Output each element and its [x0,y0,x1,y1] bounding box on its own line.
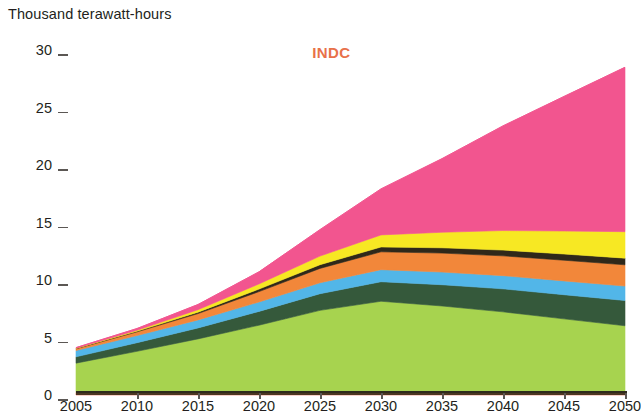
x-axis-tick-label: 2030 [365,398,397,414]
x-axis-tick-label: 2035 [426,398,458,414]
x-axis-line [76,393,627,395]
y-axis-tick-label: 20 [36,157,52,173]
x-axis-tick-label: 2050 [609,398,641,414]
x-axis-tick-label: 2020 [243,398,275,414]
x-axis-tick-label: 2015 [182,398,214,414]
y-axis-tick-mark [58,284,68,286]
x-axis-tick-mark [198,393,200,399]
x-axis-tick-label: 2010 [121,398,153,414]
x-axis-tick-label: 2025 [304,398,336,414]
y-axis-tick-label: 15 [36,215,52,231]
y-axis-tick-label: 25 [36,100,52,116]
x-axis-tick-mark [137,393,139,399]
x-axis-line-inner [76,391,627,393]
x-axis-tick-mark [381,393,383,399]
y-axis-tick-mark [58,112,68,114]
y-axis-tick-label: 0 [44,387,52,403]
x-axis-tick-label: 2005 [60,398,92,414]
stacked-area-svg [76,50,625,395]
y-axis-tick-label: 10 [36,272,52,288]
y-axis-tick-label: 5 [44,330,52,346]
x-axis-tick-mark [564,393,566,399]
x-axis-tick-mark [320,393,322,399]
plot-area [76,50,625,395]
y-axis-tick-mark [58,342,68,344]
x-axis-tick-mark [442,393,444,399]
x-axis-tick-mark [625,393,627,399]
y-axis-tick-label: 30 [36,42,52,58]
x-axis-tick-mark [503,393,505,399]
y-axis-tick-mark [58,54,68,56]
x-axis-tick-label: 2040 [487,398,519,414]
x-axis-tick-label: 2045 [548,398,580,414]
y-axis-tick-mark [58,169,68,171]
y-axis-title: Thousand terawatt-hours [8,6,172,22]
x-axis-tick-mark [259,393,261,399]
y-axis-tick-mark [58,227,68,229]
